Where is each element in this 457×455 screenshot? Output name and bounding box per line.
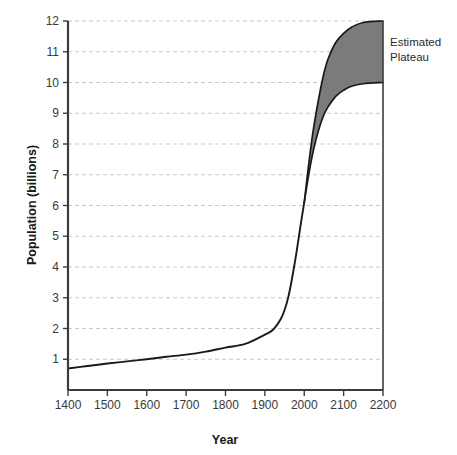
y-tick-label-12: 12 xyxy=(46,14,60,28)
y-tick-label-1: 1 xyxy=(52,352,59,366)
x-tick-label-1600: 1600 xyxy=(133,398,160,412)
y-tick-label-4: 4 xyxy=(52,260,59,274)
y-tick-label-2: 2 xyxy=(52,322,59,336)
x-tick-label-1400: 1400 xyxy=(55,398,82,412)
x-tick-label-2000: 2000 xyxy=(291,398,318,412)
population-growth-chart: 123456789101112 140015001600170018001900… xyxy=(0,0,457,455)
y-tick-label-6: 6 xyxy=(52,199,59,213)
y-tick-label-7: 7 xyxy=(52,168,59,182)
x-tick-label-1700: 1700 xyxy=(173,398,200,412)
y-tick-label-11: 11 xyxy=(47,45,60,59)
y-tick-label-3: 3 xyxy=(52,291,59,305)
y-tick-label-8: 8 xyxy=(52,137,59,151)
estimated-plateau-label-line-1: Estimated xyxy=(390,36,441,48)
y-tick-label-9: 9 xyxy=(52,106,59,120)
y-tick-label-5: 5 xyxy=(52,229,59,243)
chart-canvas: 123456789101112 140015001600170018001900… xyxy=(0,0,457,455)
x-axis-title: Year xyxy=(212,433,239,447)
x-tick-label-1800: 1800 xyxy=(212,398,239,412)
y-axis-title: Population (billions) xyxy=(25,145,39,265)
y-tick-label-10: 10 xyxy=(46,76,60,90)
x-tick-label-1900: 1900 xyxy=(252,398,279,412)
x-tick-label-1500: 1500 xyxy=(94,398,121,412)
x-tick-label-2200: 2200 xyxy=(370,398,397,412)
x-tick-label-2100: 2100 xyxy=(330,398,357,412)
estimated-plateau-label-line-2: Plateau xyxy=(390,51,429,63)
